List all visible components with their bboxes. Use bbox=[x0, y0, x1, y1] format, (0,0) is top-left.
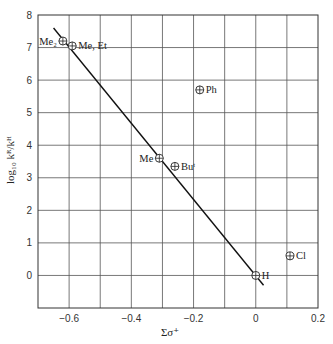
y-tick-label: 2 bbox=[26, 205, 32, 216]
data-points: Me₂Me, EtPhMeBuᵗHCl bbox=[39, 36, 306, 281]
data-point: Ph bbox=[196, 84, 218, 95]
y-axis-ticks: 012345678 bbox=[26, 10, 32, 281]
x-tick-label: 0.2 bbox=[311, 313, 325, 324]
y-tick-label: 7 bbox=[26, 42, 32, 53]
data-point: Cl bbox=[286, 250, 306, 261]
point-label: Cl bbox=[296, 250, 306, 261]
y-tick-label: 5 bbox=[26, 107, 32, 118]
data-point: Me bbox=[139, 153, 163, 164]
x-axis-label: Σσ⁺ bbox=[161, 326, 179, 338]
y-tick-label: 1 bbox=[26, 237, 32, 248]
y-tick-label: 4 bbox=[26, 140, 32, 151]
point-label: H bbox=[262, 270, 270, 281]
point-label: Me, Et bbox=[78, 40, 107, 51]
x-tick-label: −0.4 bbox=[121, 313, 141, 324]
y-tick-label: 6 bbox=[26, 75, 32, 86]
y-tick-label: 3 bbox=[26, 172, 32, 183]
point-label: Me₂ bbox=[39, 36, 57, 47]
point-label: Buᵗ bbox=[181, 161, 195, 172]
x-axis-ticks: −0.6−0.4−0.200.2 bbox=[59, 313, 325, 324]
plot-frame bbox=[38, 15, 318, 308]
data-point: Buᵗ bbox=[171, 161, 195, 172]
x-tick-label: −0.2 bbox=[184, 313, 204, 324]
x-tick-label: 0 bbox=[253, 313, 259, 324]
x-tick-label: −0.6 bbox=[59, 313, 79, 324]
y-axis-label: log₁₀ kᴿ/kᴴ bbox=[4, 136, 16, 184]
data-point: Me₂ bbox=[39, 36, 67, 47]
y-tick-label: 0 bbox=[26, 270, 32, 281]
point-label: Me bbox=[139, 153, 153, 164]
y-tick-label: 8 bbox=[26, 10, 32, 21]
point-label: Ph bbox=[206, 84, 218, 95]
scatter-chart: −0.6−0.4−0.200.2 012345678 Me₂Me, EtPhMe… bbox=[0, 0, 333, 344]
grid-lines bbox=[38, 15, 318, 308]
data-point: Me, Et bbox=[68, 40, 107, 51]
